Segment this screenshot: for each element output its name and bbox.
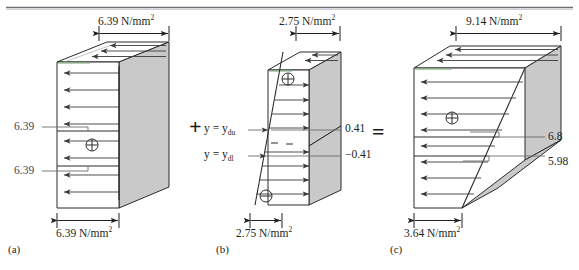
- panel-b-axis-label-du: y = ydu: [204, 122, 235, 137]
- panel-c-positive-sign-icon: [446, 112, 458, 124]
- panel-c-id-label: (c): [390, 243, 402, 255]
- panel-b-negative-sign-icon: [260, 190, 272, 202]
- panel-b-value-label-lower: −0.41: [345, 148, 372, 160]
- panel-a-positive-sign-icon: [86, 139, 98, 151]
- panel-a-bottom-dim-text: 6.39 N/mm: [56, 227, 108, 239]
- panel-b-bottom-dimension-label: 2.75 N/mm2: [236, 225, 292, 239]
- panel-b-id-label: (b): [216, 243, 229, 255]
- panel-b-top-dimension-label: 2.75 N/mm2: [279, 13, 335, 27]
- panel-c-value-label-lower: 5.98: [548, 155, 568, 167]
- panel-a-top-dim-text: 6.39 N/mm: [98, 15, 150, 27]
- panel-a-value-label-upper: 6.39: [14, 120, 34, 132]
- panel-b-top-dim-sup: 2: [331, 13, 335, 22]
- operator-plus: +: [189, 116, 202, 138]
- panel-a-bottom-dimension-label: 6.39 N/mm2: [56, 225, 112, 239]
- panel-b-top-dim-text: 2.75 N/mm: [279, 15, 331, 27]
- panel-c-top-dim-sup: 2: [518, 13, 522, 22]
- panel-c-block: [414, 46, 561, 208]
- panel-c-top-dimension-label: 9.14 N/mm2: [466, 13, 522, 27]
- top-rule: [6, 8, 573, 10]
- panel-a-top-dim-sup: 2: [150, 13, 154, 22]
- panel-c-top-dim-text: 9.14 N/mm: [466, 15, 518, 27]
- panel-b-value-label-upper: 0.41: [345, 122, 365, 134]
- panel-a-top-dimension-label: 6.39 N/mm2: [98, 13, 154, 27]
- panel-a-id-label: (a): [8, 243, 20, 255]
- panel-b-axis-label-dl-text: y = y: [204, 148, 228, 160]
- panel-c-bottom-dim-sup: 2: [456, 225, 460, 234]
- panel-b-bottom-dim-sup: 2: [288, 225, 292, 234]
- panel-c-top-dimension: [456, 26, 561, 41]
- panel-a-bottom-dim-sup: 2: [108, 225, 112, 234]
- panel-b-bottom-dim-text: 2.75 N/mm: [236, 227, 288, 239]
- panel-b-axis-label-dl: y = ydl: [204, 148, 234, 163]
- panel-a-top-dimension: [99, 26, 169, 41]
- panel-b: [248, 26, 341, 228]
- panel-c: [414, 26, 561, 228]
- panel-c-bottom-dim-text: 3.64 N/mm: [404, 227, 456, 239]
- panel-b-axis-label-dl-sub: dl: [228, 154, 234, 163]
- operator-equals: =: [372, 121, 385, 143]
- panel-b-positive-sign-icon: [282, 73, 294, 85]
- panel-b-axis-label-du-sub: du: [228, 128, 236, 137]
- panel-b-axis-label-du-text: y = y: [204, 122, 228, 134]
- panel-c-value-label-upper: 6.8: [548, 130, 562, 142]
- panel-b-top-dimension: [296, 26, 340, 41]
- panel-c-bottom-dimension-label: 3.64 N/mm2: [404, 225, 460, 239]
- panel-a: [42, 26, 169, 228]
- panel-a-value-label-lower: 6.39: [14, 164, 34, 176]
- panel-a-block: [57, 42, 169, 208]
